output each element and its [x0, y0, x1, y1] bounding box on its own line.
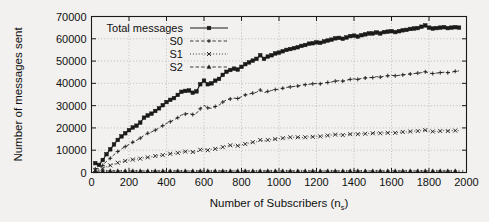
data-marker — [142, 116, 146, 120]
x-tick-label: 1000 — [267, 176, 291, 188]
data-marker — [240, 65, 244, 69]
data-marker — [198, 82, 202, 86]
data-marker — [375, 31, 379, 35]
data-marker — [176, 93, 180, 97]
data-marker — [326, 39, 330, 43]
data-marker — [315, 41, 319, 45]
data-marker — [228, 68, 232, 72]
data-marker — [382, 30, 386, 34]
data-marker — [221, 73, 225, 77]
data-marker — [195, 90, 199, 94]
data-marker — [236, 68, 240, 72]
data-marker — [311, 41, 315, 45]
data-marker — [300, 44, 304, 48]
data-marker — [371, 32, 375, 36]
data-marker — [146, 114, 150, 118]
x-tick-label: 2000 — [454, 176, 478, 188]
data-marker — [168, 98, 172, 102]
data-marker — [345, 36, 349, 40]
data-marker — [97, 163, 101, 167]
data-marker — [112, 143, 116, 147]
data-marker — [303, 43, 307, 47]
data-marker — [378, 32, 382, 36]
data-marker — [108, 148, 112, 152]
data-marker — [352, 34, 356, 38]
data-marker — [341, 37, 345, 41]
data-marker — [247, 61, 251, 65]
y-tick-label: 30000 — [56, 100, 87, 112]
data-marker — [123, 131, 127, 135]
y-tick-label: 70000 — [56, 11, 87, 23]
data-marker — [266, 55, 270, 59]
y-tick-label: 20000 — [56, 122, 87, 134]
data-marker — [450, 26, 454, 30]
data-marker — [206, 82, 210, 86]
data-marker — [330, 38, 334, 42]
data-marker — [207, 26, 211, 30]
data-marker — [412, 27, 416, 31]
legend-label: S0 — [170, 35, 183, 47]
data-marker — [318, 41, 322, 45]
y-tick-label: 0 — [80, 167, 86, 179]
data-marker — [416, 26, 420, 30]
data-marker — [442, 25, 446, 29]
y-tick-label: 60000 — [56, 33, 87, 45]
data-marker — [408, 27, 412, 31]
data-marker — [172, 96, 176, 100]
data-marker — [292, 46, 296, 50]
data-marker — [255, 57, 259, 61]
data-marker — [225, 70, 229, 74]
data-marker — [213, 79, 217, 83]
data-marker — [153, 109, 157, 113]
data-marker — [356, 35, 360, 39]
data-marker — [273, 52, 277, 56]
data-marker — [127, 128, 131, 132]
data-marker — [262, 57, 266, 61]
data-marker — [397, 29, 401, 33]
data-marker — [131, 126, 135, 130]
data-marker — [120, 135, 124, 139]
data-marker — [165, 100, 169, 104]
data-marker — [183, 89, 187, 93]
data-marker — [435, 26, 439, 30]
data-marker — [105, 152, 109, 156]
data-marker — [161, 103, 165, 107]
data-marker — [258, 53, 262, 57]
legend-label: Total messages — [107, 22, 184, 34]
y-axis-title: Number of messages sent — [12, 27, 24, 162]
x-tick-label: 400 — [157, 176, 175, 188]
data-marker — [405, 28, 409, 32]
data-marker — [93, 161, 97, 165]
data-marker — [187, 89, 191, 93]
x-tick-label: 1400 — [342, 176, 366, 188]
data-marker — [150, 112, 154, 116]
data-marker — [423, 24, 427, 28]
x-tick-label: 200 — [120, 176, 138, 188]
data-marker — [420, 25, 424, 29]
data-marker — [337, 36, 341, 40]
x-tick-label: 600 — [195, 176, 213, 188]
data-marker — [180, 90, 184, 94]
data-marker — [138, 121, 142, 125]
data-marker — [281, 49, 285, 53]
data-marker — [438, 26, 442, 30]
data-marker — [210, 82, 214, 86]
data-marker — [431, 27, 435, 31]
data-marker — [453, 25, 457, 29]
x-tick-label: 0 — [88, 176, 94, 188]
data-marker — [386, 30, 390, 34]
data-marker — [401, 29, 405, 33]
data-marker — [101, 158, 105, 162]
data-marker — [232, 67, 236, 71]
data-marker — [296, 45, 300, 49]
data-marker — [367, 32, 371, 36]
data-marker — [285, 48, 289, 52]
data-marker — [363, 33, 367, 37]
data-marker — [202, 79, 206, 83]
data-marker — [427, 26, 431, 30]
data-marker — [270, 53, 274, 57]
data-marker — [457, 26, 461, 30]
data-marker — [390, 29, 394, 33]
y-tick-label: 40000 — [56, 77, 87, 89]
line-chart: 0100002000030000400005000060000700000200… — [0, 0, 489, 222]
